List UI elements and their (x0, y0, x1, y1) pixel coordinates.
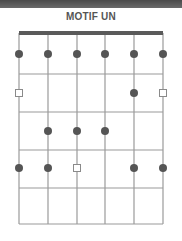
finger-dot (159, 50, 167, 58)
finger-dot (73, 50, 81, 58)
root-square-marker (74, 165, 81, 172)
finger-dot (159, 164, 167, 172)
finger-dot (15, 50, 23, 58)
finger-dot (130, 50, 138, 58)
note-markers (15, 50, 167, 172)
finger-dot (101, 50, 109, 58)
root-square-marker (160, 90, 167, 97)
root-square-marker (16, 90, 23, 97)
finger-dot (44, 164, 52, 172)
finger-dot (130, 164, 138, 172)
nut-bar (19, 31, 163, 35)
finger-dot (130, 89, 138, 97)
finger-dot (15, 164, 23, 172)
finger-dot (44, 50, 52, 58)
finger-dot (73, 127, 81, 135)
finger-dot (44, 127, 52, 135)
fretboard-diagram (0, 0, 182, 241)
fretboard-grid (19, 31, 163, 224)
finger-dot (101, 127, 109, 135)
